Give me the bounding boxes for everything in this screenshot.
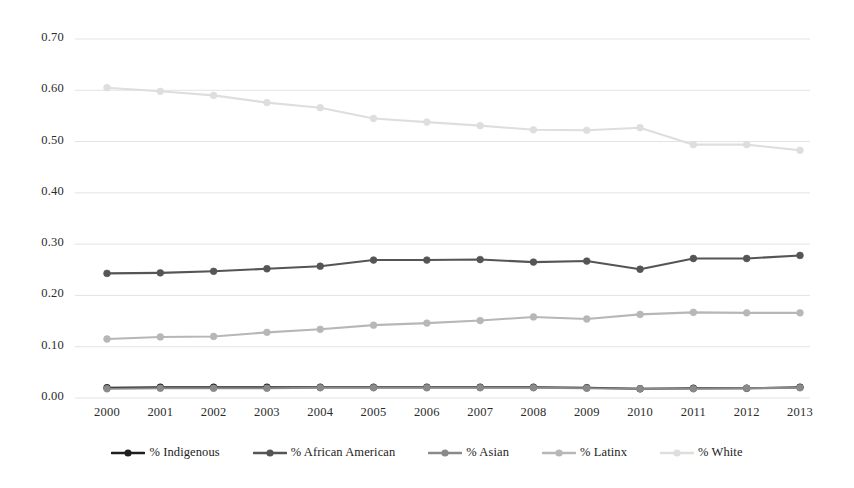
data-point <box>637 266 644 273</box>
y-axis-tick-label: 0.10 <box>18 338 64 353</box>
data-point <box>157 88 164 95</box>
data-point <box>797 147 804 154</box>
data-point <box>477 317 484 324</box>
data-point <box>690 385 697 392</box>
data-point <box>637 385 644 392</box>
x-axis-tick-label: 2004 <box>294 405 346 420</box>
data-point <box>370 384 377 391</box>
data-point <box>690 255 697 262</box>
x-axis-tick-label: 2003 <box>241 405 293 420</box>
data-point <box>264 385 271 392</box>
data-point <box>210 333 217 340</box>
data-point <box>530 259 537 266</box>
data-point <box>370 115 377 122</box>
data-point <box>797 252 804 259</box>
x-axis-tick-label: 2007 <box>454 405 506 420</box>
data-point <box>104 270 111 277</box>
data-point <box>477 122 484 129</box>
x-axis-tick-label: 2001 <box>134 405 186 420</box>
data-point <box>264 329 271 336</box>
series-latinx <box>104 309 804 342</box>
data-point <box>423 119 430 126</box>
x-axis-tick-label: 2011 <box>667 405 719 420</box>
legend-marker-icon <box>428 447 462 459</box>
data-point <box>743 255 750 262</box>
data-point <box>210 385 217 392</box>
legend-label: % Asian <box>466 445 509 460</box>
legend-marker-icon <box>111 447 145 459</box>
data-point <box>797 384 804 391</box>
data-point <box>423 320 430 327</box>
legend-marker-icon <box>253 447 287 459</box>
data-point <box>477 384 484 391</box>
data-point <box>423 257 430 264</box>
data-point <box>797 309 804 316</box>
data-point <box>317 326 324 333</box>
data-point <box>157 269 164 276</box>
y-axis-tick-label: 0.40 <box>18 184 64 199</box>
data-point <box>210 92 217 99</box>
legend-label: % White <box>698 445 743 460</box>
data-point <box>530 126 537 133</box>
series-asian <box>104 384 804 392</box>
legend-item[interactable]: % Latinx <box>542 445 627 460</box>
data-point <box>583 127 590 134</box>
legend-marker-icon <box>542 447 576 459</box>
data-point <box>530 384 537 391</box>
legend-label: % African American <box>291 445 396 460</box>
x-axis-tick-label: 2006 <box>401 405 453 420</box>
data-point <box>743 385 750 392</box>
legend-item[interactable]: % Indigenous <box>111 445 219 460</box>
chart-legend: % Indigenous% African American% Asian% L… <box>0 445 854 460</box>
x-axis-tick-label: 2009 <box>561 405 613 420</box>
data-point <box>583 385 590 392</box>
x-axis-tick-label: 2012 <box>721 405 773 420</box>
x-axis-tick-label: 2000 <box>81 405 133 420</box>
data-point <box>317 104 324 111</box>
y-axis-tick-label: 0.00 <box>18 389 64 404</box>
x-axis-tick-label: 2013 <box>774 405 826 420</box>
data-point <box>104 385 111 392</box>
data-point <box>264 99 271 106</box>
data-point <box>423 384 430 391</box>
data-point <box>690 141 697 148</box>
y-axis-tick-label: 0.70 <box>18 30 64 45</box>
data-point <box>104 336 111 343</box>
data-point <box>637 124 644 131</box>
data-point <box>370 257 377 264</box>
data-point <box>157 334 164 341</box>
data-point <box>743 141 750 148</box>
data-point <box>743 309 750 316</box>
data-point <box>477 256 484 263</box>
series-african-american <box>104 252 804 277</box>
data-point <box>317 384 324 391</box>
data-point <box>317 263 324 270</box>
data-point <box>690 309 697 316</box>
data-point <box>583 258 590 265</box>
legend-label: % Indigenous <box>149 445 219 460</box>
y-axis-tick-label: 0.20 <box>18 286 64 301</box>
data-point <box>157 385 164 392</box>
y-axis-tick-label: 0.60 <box>18 81 64 96</box>
legend-marker-icon <box>660 447 694 459</box>
data-point <box>264 265 271 272</box>
y-axis-tick-label: 0.30 <box>18 235 64 250</box>
legend-item[interactable]: % African American <box>253 445 396 460</box>
legend-item[interactable]: % White <box>660 445 743 460</box>
legend-item[interactable]: % Asian <box>428 445 509 460</box>
data-point <box>370 322 377 329</box>
data-point <box>530 314 537 321</box>
data-point <box>104 84 111 91</box>
legend-label: % Latinx <box>580 445 627 460</box>
x-axis-tick-label: 2005 <box>348 405 400 420</box>
data-point <box>210 268 217 275</box>
x-axis-tick-label: 2008 <box>508 405 560 420</box>
y-axis-tick-label: 0.50 <box>18 133 64 148</box>
x-axis-tick-label: 2010 <box>614 405 666 420</box>
series-white <box>104 84 804 153</box>
chart-figure: 0.000.100.200.300.400.500.600.70 2000200… <box>0 0 854 488</box>
data-point <box>637 311 644 318</box>
data-point <box>583 316 590 323</box>
x-axis-tick-label: 2002 <box>188 405 240 420</box>
